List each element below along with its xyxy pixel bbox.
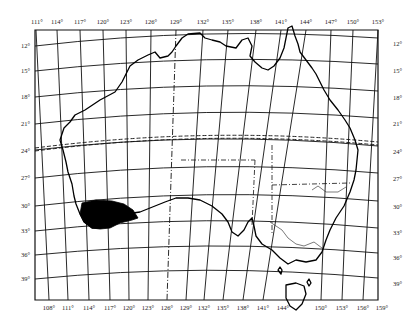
svg-text:15°: 15° [21,67,31,74]
top-longitude-labels: 111° 114° 117° 120° 123° 126° 129° 132° … [31,18,385,25]
svg-text:12°: 12° [393,40,403,47]
svg-text:24°: 24° [393,148,403,155]
svg-text:144°: 144° [277,304,290,311]
svg-text:129°: 129° [170,18,183,25]
svg-text:147°: 147° [325,18,338,25]
svg-text:21°: 21° [393,120,403,127]
svg-text:150°: 150° [347,18,360,25]
svg-text:123°: 123° [120,18,133,25]
left-latitude-labels: 12° 15° 18° 21° 24° 27° 30° 33° 36° 39° [21,42,31,282]
svg-text:153°: 153° [336,304,349,311]
svg-text:27°: 27° [21,174,31,181]
svg-text:129°: 129° [180,304,193,311]
svg-text:30°: 30° [393,203,403,210]
svg-text:15°: 15° [393,67,403,74]
bottom-longitude-labels: 108° 111° 114° 117° 120° 123° 126° 129° … [43,304,389,311]
right-latitude-labels: 12° 15° 18° 21° 24° 27° 30° 33° 36° 39° [393,40,403,287]
svg-text:135°: 135° [222,18,235,25]
svg-text:39°: 39° [393,280,403,287]
svg-text:108°: 108° [43,304,56,311]
svg-text:33°: 33° [393,229,403,236]
svg-text:135°: 135° [217,304,230,311]
svg-text:36°: 36° [393,254,403,261]
svg-text:126°: 126° [161,304,174,311]
meridians [36,30,378,300]
svg-text:159°: 159° [376,304,389,311]
svg-text:27°: 27° [393,175,403,182]
svg-text:153°: 153° [372,18,385,25]
svg-text:12°: 12° [21,42,31,49]
svg-text:18°: 18° [393,94,403,101]
svg-text:141°: 141° [275,18,288,25]
svg-text:156°: 156° [357,304,370,311]
svg-text:111°: 111° [31,18,43,25]
map-frame [35,30,378,300]
svg-text:39°: 39° [21,275,31,282]
svg-text:111°: 111° [62,304,74,311]
svg-text:126°: 126° [145,18,158,25]
svg-text:18°: 18° [21,93,31,100]
svg-text:117°: 117° [104,304,117,311]
svg-text:132°: 132° [198,304,211,311]
svg-text:132°: 132° [197,18,210,25]
svg-text:114°: 114° [83,304,96,311]
svg-text:117°: 117° [74,18,87,25]
svg-text:150°: 150° [315,304,328,311]
svg-text:120°: 120° [97,18,110,25]
svg-text:120°: 120° [123,304,136,311]
svg-text:144°: 144° [300,18,313,25]
svg-text:138°: 138° [250,18,263,25]
svg-text:21°: 21° [21,120,31,127]
svg-text:114°: 114° [51,18,64,25]
australia-map: 111° 114° 117° 120° 123° 126° 129° 132° … [0,0,417,329]
svg-text:33°: 33° [21,227,31,234]
svg-text:36°: 36° [21,251,31,258]
svg-text:138°: 138° [237,304,250,311]
svg-text:24°: 24° [21,147,31,154]
svg-text:141°: 141° [257,304,270,311]
svg-text:123°: 123° [142,304,155,311]
svg-text:30°: 30° [21,202,31,209]
highlighted-southwest-region [80,200,138,229]
